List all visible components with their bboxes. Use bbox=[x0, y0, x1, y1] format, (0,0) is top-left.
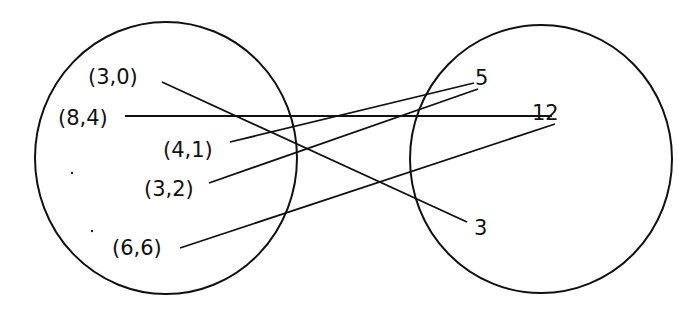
domain-element-label: (8,4) bbox=[58, 108, 108, 129]
codomain-element-label: 3 bbox=[474, 218, 487, 239]
mapping-arrow-line bbox=[180, 124, 555, 248]
mapping-diagram bbox=[0, 0, 700, 311]
codomain-element-label: 12 bbox=[532, 103, 559, 124]
domain-element-label: (4,1) bbox=[163, 140, 213, 161]
stray-dot bbox=[71, 172, 73, 174]
stray-dot bbox=[91, 230, 93, 232]
mapping-arrow-line bbox=[209, 89, 478, 183]
mapping-lines bbox=[125, 82, 555, 248]
domain-element-label: (6,6) bbox=[112, 238, 162, 259]
domain-element-label: (3,0) bbox=[88, 67, 138, 88]
codomain-element-label: 5 bbox=[475, 68, 488, 89]
domain-element-label: (3,2) bbox=[144, 179, 194, 200]
